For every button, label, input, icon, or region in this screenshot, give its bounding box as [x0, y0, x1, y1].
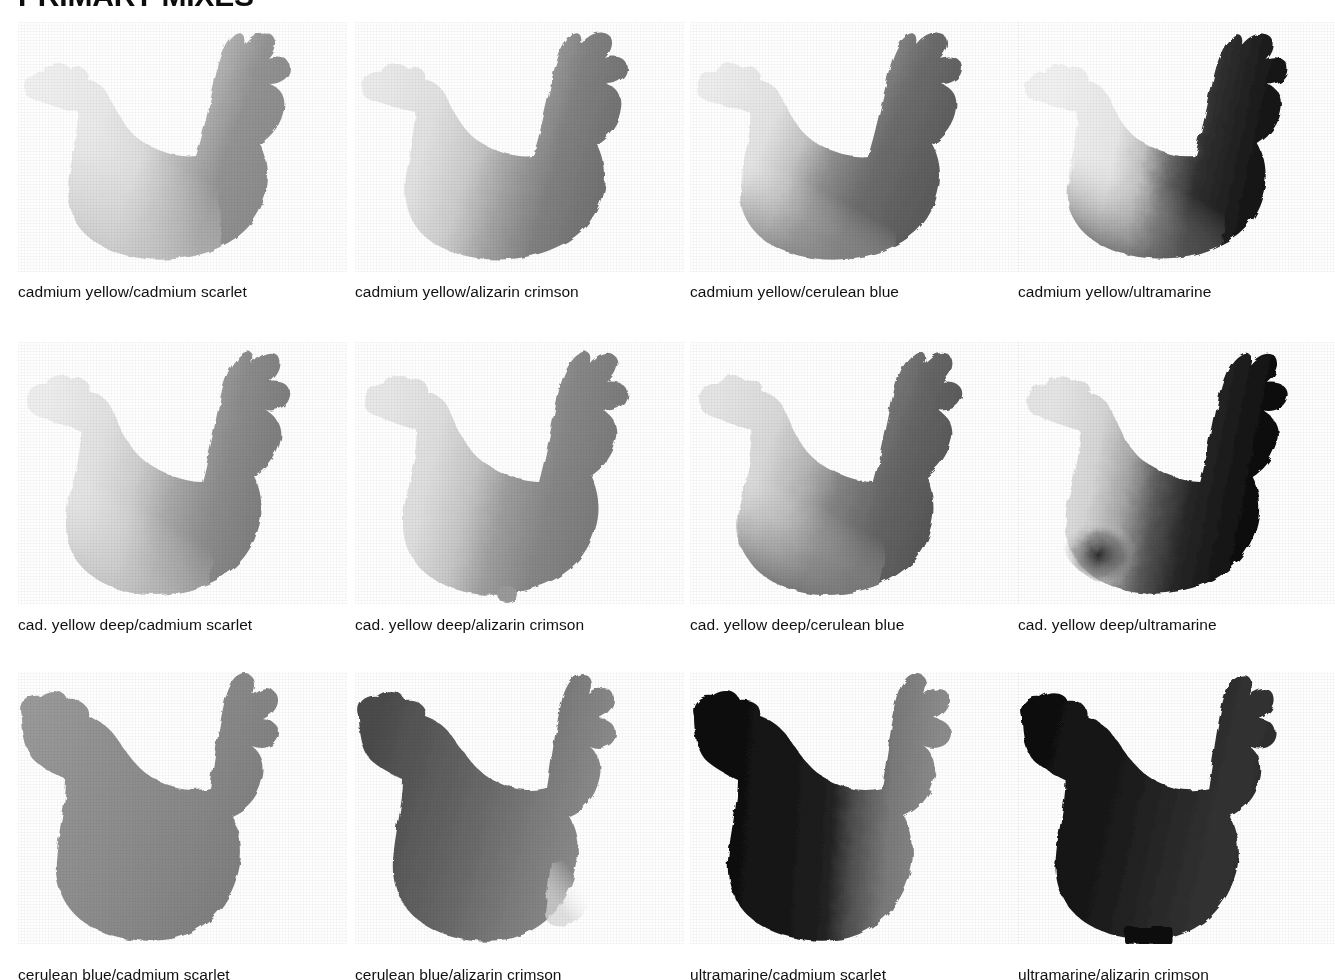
- hen-silhouette-icon: [690, 342, 1010, 604]
- swatch-image: [18, 672, 348, 944]
- swatch-cell: cad. yellow deep/cerulean blue: [690, 342, 1020, 604]
- hen-silhouette-icon: [355, 22, 675, 272]
- hen-silhouette-icon: [18, 342, 338, 604]
- swatch-grid: cadmium yellow/cadmium scarlet: [0, 22, 1335, 980]
- swatch-image: [690, 22, 1020, 272]
- swatch-cell: cad. yellow deep/cadmium scarlet: [18, 342, 348, 604]
- swatch-image: [1018, 22, 1335, 272]
- swatch-image: [1018, 342, 1335, 604]
- swatch-cell: cerulean blue/alizarin crimson: [355, 672, 685, 944]
- swatch-caption: cerulean blue/cadmium scarlet: [18, 967, 230, 980]
- hen-silhouette-icon: [690, 672, 1010, 944]
- swatch-image: [355, 672, 685, 944]
- page-title: PRIMARY MIXES: [18, 0, 254, 11]
- swatch-image: [690, 342, 1020, 604]
- swatch-cell: cadmium yellow/cadmium scarlet: [18, 22, 348, 272]
- swatch-image: [355, 342, 685, 604]
- swatch-image: [1018, 672, 1335, 944]
- swatch-caption: cadmium yellow/cerulean blue: [690, 284, 899, 300]
- swatch-caption: cerulean blue/alizarin crimson: [355, 967, 562, 980]
- swatch-caption: cad. yellow deep/cerulean blue: [690, 617, 904, 633]
- hen-silhouette-icon: [355, 342, 675, 604]
- swatch-cell: ultramarine/alizarin crimson: [1018, 672, 1335, 944]
- swatch-cell: cad. yellow deep/ultramarine: [1018, 342, 1335, 604]
- primary-mixes-page: PRIMARY MIXES: [0, 0, 1335, 980]
- swatch-caption: cadmium yellow/cadmium scarlet: [18, 284, 247, 300]
- swatch-cell: cadmium yellow/cerulean blue: [690, 22, 1020, 272]
- swatch-caption: cad. yellow deep/cadmium scarlet: [18, 617, 252, 633]
- swatch-cell: cadmium yellow/ultramarine: [1018, 22, 1335, 272]
- swatch-caption: cadmium yellow/ultramarine: [1018, 284, 1211, 300]
- swatch-cell: cad. yellow deep/alizarin crimson: [355, 342, 685, 604]
- swatch-cell: ultramarine/cadmium scarlet: [690, 672, 1020, 944]
- hen-silhouette-icon: [18, 22, 338, 272]
- hen-silhouette-icon: [1018, 342, 1335, 604]
- swatch-caption: ultramarine/cadmium scarlet: [690, 967, 886, 980]
- swatch-row: cadmium yellow/cadmium scarlet: [0, 22, 1335, 342]
- swatch-cell: cerulean blue/cadmium scarlet: [18, 672, 348, 944]
- swatch-image: [18, 22, 348, 272]
- swatch-image: [355, 22, 685, 272]
- hen-silhouette-icon: [1018, 672, 1335, 944]
- swatch-image: [690, 672, 1020, 944]
- swatch-caption: cad. yellow deep/alizarin crimson: [355, 617, 584, 633]
- hen-silhouette-icon: [18, 672, 338, 944]
- swatch-row: cad. yellow deep/cadmium scarlet: [0, 342, 1335, 672]
- swatch-caption: cad. yellow deep/ultramarine: [1018, 617, 1217, 633]
- hen-silhouette-icon: [1018, 22, 1335, 272]
- hen-silhouette-icon: [690, 22, 1010, 272]
- swatch-row: cerulean blue/cadmium scarlet: [0, 672, 1335, 980]
- page-title-clip: PRIMARY MIXES: [0, 0, 420, 22]
- hen-silhouette-icon: [355, 672, 675, 944]
- swatch-image: [18, 342, 348, 604]
- swatch-cell: cadmium yellow/alizarin crimson: [355, 22, 685, 272]
- swatch-caption: cadmium yellow/alizarin crimson: [355, 284, 579, 300]
- swatch-caption: ultramarine/alizarin crimson: [1018, 967, 1209, 980]
